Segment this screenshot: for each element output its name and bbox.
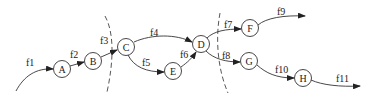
edge-f5: f5 — [128, 55, 164, 72]
edge-label-f5: f5 — [142, 57, 150, 68]
node-label-b: B — [90, 56, 97, 67]
edge-f3: f3 — [100, 35, 117, 57]
edge-label-f10: f10 — [275, 64, 288, 75]
edge-label-f11: f11 — [336, 73, 349, 84]
node-label-c: C — [123, 42, 130, 53]
flow-graph-diagram: f1 f2 f3 f4 f5 f6 f7 f8 f9 f10 f11 — [0, 0, 372, 101]
edge-label-f2: f2 — [70, 49, 78, 60]
node-b: B — [85, 53, 102, 70]
node-label-h: H — [299, 73, 306, 84]
node-label-d: D — [197, 39, 204, 50]
edge-f4: f4 — [134, 27, 192, 42]
edge-f7: f7 — [207, 19, 241, 38]
node-label-e: E — [170, 66, 176, 77]
edge-f6: f6 — [180, 49, 196, 67]
node-label-a: A — [58, 64, 66, 75]
edge-label-f6: f6 — [180, 49, 188, 60]
node-f: F — [242, 20, 259, 37]
edge-label-f8: f8 — [222, 50, 230, 61]
edge-f11: f11 — [311, 73, 360, 86]
node-e: E — [165, 63, 182, 80]
node-c: C — [118, 39, 135, 56]
node-h: H — [295, 70, 312, 87]
edge-label-f1: f1 — [26, 57, 34, 68]
edge-f10: f10 — [257, 64, 294, 78]
edge-f9: f9 — [258, 6, 305, 25]
edge-label-f9: f9 — [277, 6, 285, 17]
node-label-f: F — [247, 23, 253, 34]
node-g: G — [241, 53, 258, 70]
edge-label-f7: f7 — [224, 19, 232, 30]
node-label-g: G — [245, 56, 252, 67]
edge-f2: f2 — [70, 49, 84, 66]
edge-label-f4: f4 — [150, 27, 158, 38]
edge-label-f3: f3 — [100, 35, 108, 46]
edge-f8: f8 — [206, 50, 240, 62]
node-d: D — [193, 36, 210, 53]
node-a: A — [54, 61, 71, 78]
edge-f1: f1 — [16, 57, 53, 91]
